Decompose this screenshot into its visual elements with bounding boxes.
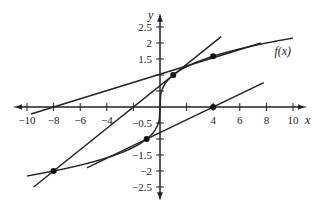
x-tick-label: −4 [101, 114, 113, 126]
labels: −10−8−6−446810−2.5−2−1.5−0.51.522.5xyf(x… [18, 8, 311, 193]
x-tick-label: 10 [288, 114, 300, 126]
x-tick-label: −10 [18, 114, 36, 126]
y-tick-label: −1.5 [132, 149, 152, 161]
y-tick-label: 2 [147, 37, 153, 49]
x-tick-label: 4 [210, 114, 216, 126]
y-tick-label: 1.5 [138, 53, 152, 65]
y-tick-label: 2.5 [138, 21, 152, 33]
y-tick-label: −2.5 [132, 181, 152, 193]
function-label: f(x) [274, 44, 291, 58]
y-axis-label: y [147, 8, 154, 22]
y-tick-label: −2 [140, 165, 152, 177]
marked-point [210, 104, 216, 110]
marked-point [144, 136, 150, 142]
marked-point [170, 72, 176, 78]
x-axis-label: x [304, 113, 311, 127]
y-tick-label: −0.5 [132, 117, 152, 129]
marked-point [210, 53, 216, 59]
x-tick-label: 6 [237, 114, 243, 126]
x-tick-label: −8 [48, 114, 60, 126]
marked-point [51, 168, 57, 174]
chart: −10−8−6−446810−2.5−2−1.5−0.51.522.5xyf(x… [0, 0, 316, 215]
x-tick-label: −6 [74, 114, 86, 126]
x-tick-label: 8 [264, 114, 270, 126]
secant-line [34, 37, 222, 187]
